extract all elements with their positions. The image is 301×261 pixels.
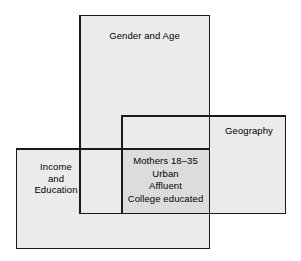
geography-top-edge bbox=[121, 115, 286, 117]
region-label-geography: Geography bbox=[212, 125, 286, 137]
income-education-top-edge bbox=[16, 148, 210, 150]
set-overlap-diagram: Gender and Age Geography Income and Educ… bbox=[0, 0, 301, 261]
geography-bottom-edge bbox=[121, 213, 286, 215]
region-label-gender-and-age: Gender and Age bbox=[79, 30, 210, 42]
region-label-income-and-education: Income and Education bbox=[16, 161, 96, 196]
intersection-label-target-segment: Mothers 18–35 Urban Affluent College edu… bbox=[118, 155, 213, 205]
